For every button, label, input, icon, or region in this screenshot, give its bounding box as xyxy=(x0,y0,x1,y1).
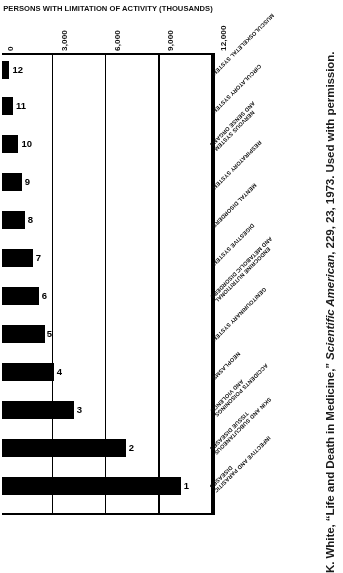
bar-row: 8 xyxy=(2,211,215,229)
bar-row: 4 xyxy=(2,363,215,381)
tick-label-3000: 3,000 xyxy=(60,30,69,51)
bar-1 xyxy=(2,477,181,495)
bar-value-rank-3: 3 xyxy=(77,405,82,415)
bar-5 xyxy=(2,325,45,343)
bar-12 xyxy=(2,61,9,79)
caption-journal: Scientific American xyxy=(323,255,336,360)
category-label-neoplasms: NEOPLASMS xyxy=(211,351,242,382)
tick-label-6000: 6,000 xyxy=(113,30,122,51)
bar-value-rank-10: 10 xyxy=(21,139,32,149)
bar-value-rank-5: 5 xyxy=(47,329,52,339)
bar-value-rank-11: 11 xyxy=(16,101,26,111)
bar-row: 6 xyxy=(2,287,215,305)
bar-value-rank-2: 2 xyxy=(129,443,134,453)
bar-value-rank-8: 8 xyxy=(28,215,33,225)
value-axis-title: PERSONS WITH LIMITATION OF ACTIVITY (THO… xyxy=(0,4,223,13)
bar-2 xyxy=(2,439,126,457)
caption-pre: K. White, “Life and Death in Medicine,” xyxy=(323,360,336,573)
category-label-musculoskeletal-system: MUSCULOSKELETAL SYSTEM xyxy=(211,12,276,77)
bar-row: 11 xyxy=(2,97,215,115)
bar-row: 7 xyxy=(2,249,215,267)
figure-canvas: 1 2 3 4 5 6 7 8 xyxy=(0,0,343,573)
bar-8 xyxy=(2,211,25,229)
bar-row: 1 xyxy=(2,477,215,495)
bar-3 xyxy=(2,401,74,419)
bar-11 xyxy=(2,97,13,115)
bar-7 xyxy=(2,249,33,267)
bar-value-rank-7: 7 xyxy=(36,253,41,263)
bar-row: 3 xyxy=(2,401,215,419)
bar-value-rank-1: 1 xyxy=(184,481,189,491)
bar-row: 2 xyxy=(2,439,215,457)
bar-value-rank-12: 12 xyxy=(12,65,23,75)
bar-row: 5 xyxy=(2,325,215,343)
bar-row: 12 xyxy=(2,61,215,79)
bar-6 xyxy=(2,287,39,305)
bar-value-rank-9: 9 xyxy=(25,177,30,187)
source-caption-text: K. White, “Life and Death in Medicine,” … xyxy=(317,0,343,573)
value-axis-ticks: 12,000 9,000 6,000 3,000 0 xyxy=(2,13,215,51)
bar-4 xyxy=(2,363,54,381)
tick-label-9000: 9,000 xyxy=(166,30,175,51)
bar-series: 1 2 3 4 5 6 7 8 xyxy=(2,53,215,515)
bar-row: 9 xyxy=(2,173,215,191)
bar-value-rank-4: 4 xyxy=(57,367,62,377)
tick-label-0: 0 xyxy=(6,46,15,51)
source-caption: K. White, “Life and Death in Medicine,” … xyxy=(317,0,343,573)
category-label-endocrine-nutritional-and-metabolic-disorders: ENDOCRINE NUTRITIONAL AND METABOLIC DISO… xyxy=(208,235,277,304)
bar-value-rank-6: 6 xyxy=(42,291,47,301)
bar-row: 10 xyxy=(2,135,215,153)
bar-9 xyxy=(2,173,22,191)
bar-10 xyxy=(2,135,18,153)
caption-post: , 229, 23, 1973. Used with permission. xyxy=(323,52,336,255)
